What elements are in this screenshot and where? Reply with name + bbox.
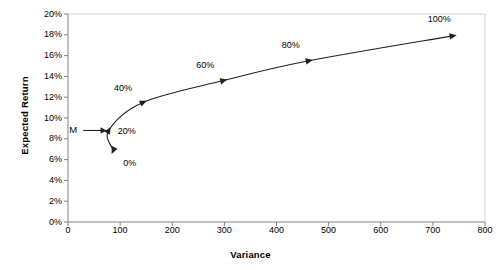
data-point-marker	[139, 98, 148, 107]
annotation-arrows	[83, 127, 106, 133]
data-point-marker	[220, 76, 229, 84]
frontier-curve	[107, 36, 453, 150]
data-point-marker	[109, 146, 118, 155]
data-point-markers	[104, 32, 457, 155]
plot-area	[0, 0, 501, 270]
chart-container: Expected Return Variance 0%2%4%6%8%10%12…	[0, 0, 501, 270]
axis-ticks	[64, 14, 485, 226]
plot-frame	[68, 14, 485, 222]
data-point-marker	[449, 32, 457, 40]
